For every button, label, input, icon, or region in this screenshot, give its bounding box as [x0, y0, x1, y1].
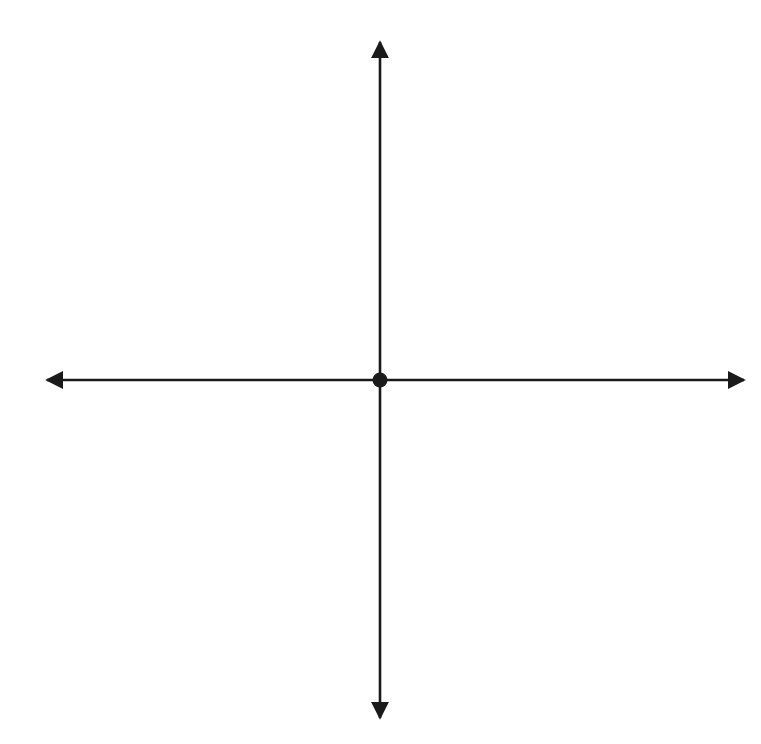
- coordinate-plane-figure: [0, 0, 761, 744]
- center-of-dilation-point: [373, 373, 388, 388]
- coordinate-plane-svg: [0, 0, 761, 744]
- axis-lines: [47, 42, 744, 718]
